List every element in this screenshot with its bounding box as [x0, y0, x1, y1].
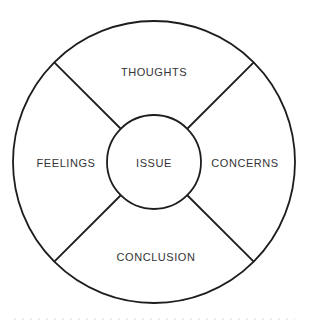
hub-label-issue: ISSUE: [136, 157, 172, 170]
segment-label-feelings: FEELINGS: [37, 157, 96, 170]
issue-wheel-diagram: THOUGHTS CONCERNS CONCLUSION FEELINGS IS…: [0, 0, 309, 324]
spoke-lower-left: [54, 195, 120, 261]
segment-label-conclusion: CONCLUSION: [117, 251, 196, 264]
segment-label-thoughts: THOUGHTS: [121, 66, 187, 79]
segment-label-concerns: CONCERNS: [211, 157, 278, 170]
spoke-upper-right: [187, 62, 253, 128]
spoke-lower-right: [187, 195, 253, 261]
spoke-upper-left: [54, 62, 120, 128]
